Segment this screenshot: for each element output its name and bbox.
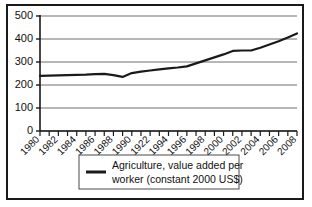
- y-axis-tick-label: 100: [15, 101, 33, 113]
- x-axis-tick-label: 1996: [165, 133, 189, 157]
- x-axis-tick-label: 2008: [275, 133, 299, 157]
- x-axis-tick-label: 1998: [183, 133, 207, 157]
- data-series-line: [40, 33, 297, 76]
- legend-label-line-2: worker (constant 2000 US$): [111, 173, 243, 185]
- y-axis-tick-label: 500: [15, 9, 33, 21]
- x-axis-tick-label: 1986: [73, 133, 97, 157]
- x-axis-tick-label: 2006: [257, 133, 281, 157]
- chart-screenshot: 0100200300400500 19801982198419861988199…: [0, 0, 312, 207]
- x-axis-tick-label: 2004: [238, 133, 262, 157]
- gridlines: [40, 16, 297, 131]
- x-axis-tick-label: 2002: [220, 133, 244, 157]
- x-axis-tick-label: 1984: [55, 133, 79, 157]
- x-axis-tick-label: 1982: [36, 133, 60, 157]
- y-axis-tick-label: 300: [15, 55, 33, 67]
- legend-box: Agriculture, value added per worker (con…: [79, 155, 244, 189]
- legend-label-line-1: Agriculture, value added per: [112, 159, 244, 171]
- x-axis-tick-labels: 1980198219841986198819901922199419961998…: [18, 133, 299, 157]
- y-axis-tick-label: 400: [15, 32, 33, 44]
- line-chart: 0100200300400500 19801982198419861988199…: [8, 6, 302, 198]
- chart-outer-border: 0100200300400500 19801982198419861988199…: [6, 4, 304, 200]
- x-axis-tick-label: 2000: [201, 133, 225, 157]
- y-axis-tick-label: 200: [15, 78, 33, 90]
- y-axis-tick-labels: 0100200300400500: [15, 9, 33, 136]
- x-axis-tick-label: 1990: [110, 133, 134, 157]
- x-axis-tick-label: 1988: [91, 133, 115, 157]
- x-axis-tick-label: 1980: [18, 133, 42, 157]
- x-axis-tick-label: 1994: [146, 133, 170, 157]
- x-axis-tick-label: 1922: [128, 133, 152, 157]
